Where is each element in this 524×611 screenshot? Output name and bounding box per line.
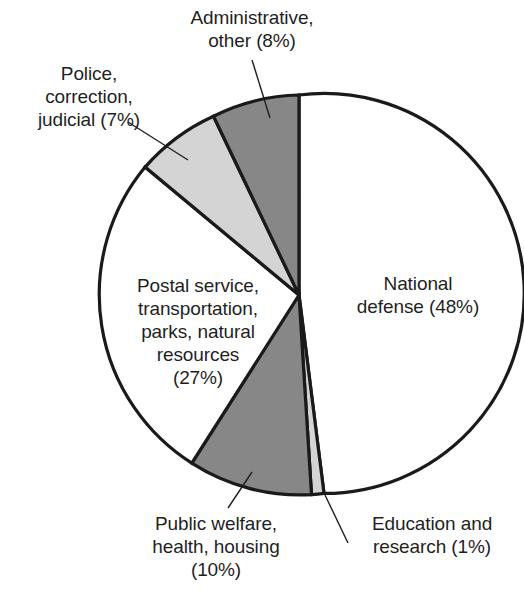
- pie-label-police-correction: Police, correction, judicial (7%): [9, 62, 169, 131]
- pie-label-administrative-other: Administrative, other (8%): [167, 6, 337, 52]
- pie-label-public-welfare: Public welfare, health, housing (10%): [128, 512, 304, 581]
- pie-label-education-research: Education and research (1%): [352, 512, 512, 558]
- leader-line-education-research: [325, 495, 348, 543]
- pie-chart-figure: Administrative, other (8%) Police, corre…: [0, 0, 524, 611]
- pie-label-postal-transportation: Postal service, transportation, parks, n…: [113, 274, 283, 389]
- pie-label-national-defense: National defense (48%): [338, 272, 498, 318]
